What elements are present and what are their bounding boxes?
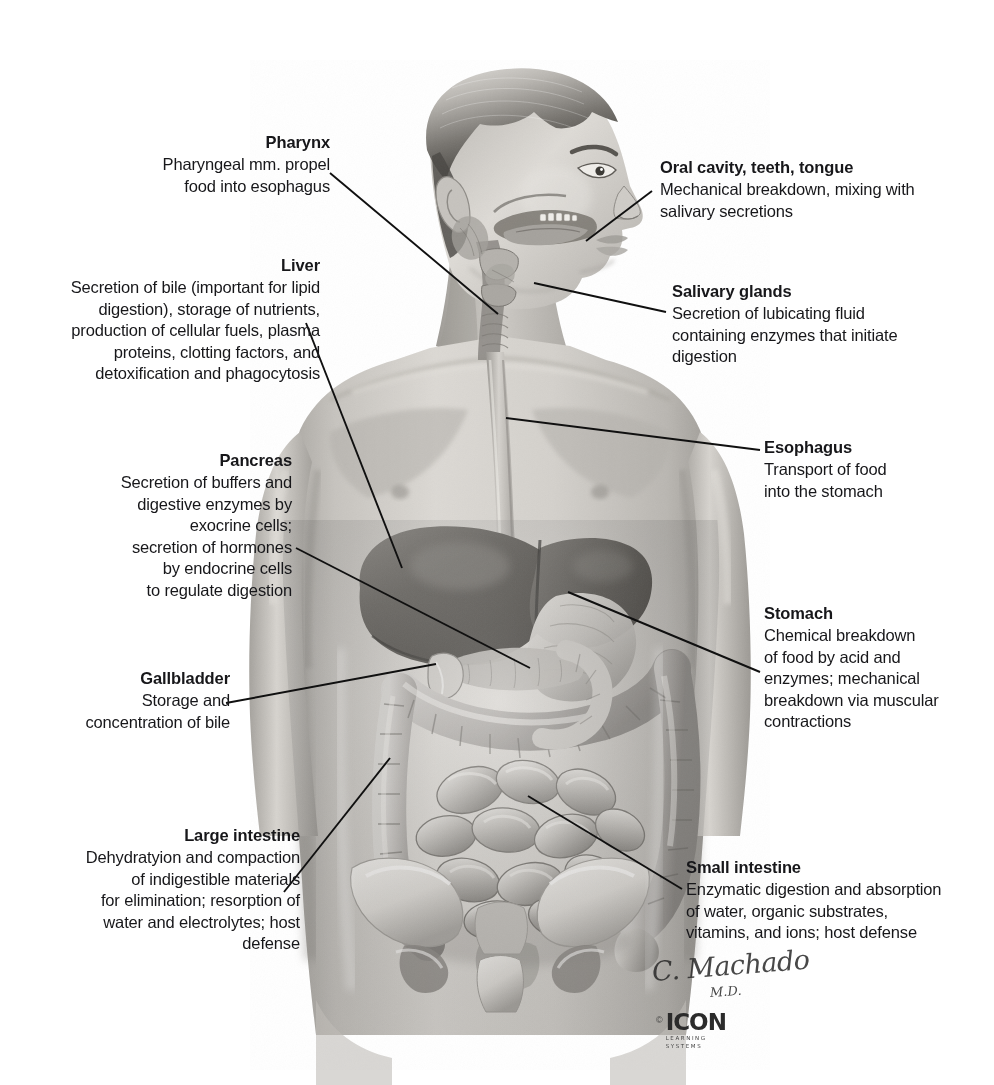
callout-liver: Liver Secretion of bile (important for l… bbox=[42, 255, 320, 385]
callout-oral-cavity-body: Mechanical breakdown, mixing with saliva… bbox=[660, 179, 960, 222]
callout-small-intestine: Small intestine Enzymatic digestion and … bbox=[686, 857, 972, 944]
callout-oral-cavity: Oral cavity, teeth, tongue Mechanical br… bbox=[660, 157, 960, 222]
callout-pharynx-body: Pharyngeal mm. propel food into esophagu… bbox=[118, 154, 330, 197]
callout-gallbladder: Gallbladder Storage and concentration of… bbox=[38, 668, 230, 733]
callout-salivary-glands: Salivary glands Secretion of lubicating … bbox=[672, 281, 962, 368]
callout-large-intestine: Large intestine Dehydratyion and compact… bbox=[18, 825, 300, 955]
callout-small-intestine-body: Enzymatic digestion and absorption of wa… bbox=[686, 879, 972, 943]
callout-pancreas: Pancreas Secretion of buffers and digest… bbox=[52, 450, 292, 601]
callout-large-intestine-body: Dehydratyion and compaction of indigesti… bbox=[18, 847, 300, 954]
callout-pancreas-body: Secretion of buffers and digestive enzym… bbox=[52, 472, 292, 601]
icon-learning-systems-logo: ICON LEARNING SYSTEMS bbox=[666, 1012, 726, 1050]
copyright-symbol: © bbox=[656, 1016, 663, 1025]
artist-credit: C. Machado M.D. © ICON LEARNING SYSTEMS bbox=[652, 956, 832, 1050]
callout-stomach-title: Stomach bbox=[764, 603, 978, 624]
callout-esophagus: Esophagus Transport of food into the sto… bbox=[764, 437, 974, 502]
publisher-brand-name: ICON bbox=[666, 1012, 726, 1033]
callout-small-intestine-title: Small intestine bbox=[686, 857, 972, 878]
callout-salivary-glands-body: Secretion of lubicating fluid containing… bbox=[672, 303, 962, 367]
callout-pharynx: Pharynx Pharyngeal mm. propel food into … bbox=[118, 132, 330, 197]
callout-pharynx-title: Pharynx bbox=[118, 132, 330, 153]
publisher-tagline: LEARNING SYSTEMS bbox=[666, 1034, 726, 1051]
digestive-system-figure: Pharynx Pharyngeal mm. propel food into … bbox=[0, 0, 994, 1085]
callout-pancreas-title: Pancreas bbox=[52, 450, 292, 471]
callout-gallbladder-body: Storage and concentration of bile bbox=[38, 690, 230, 733]
callout-oral-cavity-title: Oral cavity, teeth, tongue bbox=[660, 157, 960, 178]
callout-liver-body: Secretion of bile (important for lipid d… bbox=[42, 277, 320, 384]
callout-liver-title: Liver bbox=[42, 255, 320, 276]
callout-salivary-glands-title: Salivary glands bbox=[672, 281, 962, 302]
callout-stomach-body: Chemical breakdown of food by acid and e… bbox=[764, 625, 978, 732]
callout-gallbladder-title: Gallbladder bbox=[38, 668, 230, 689]
callout-stomach: Stomach Chemical breakdown of food by ac… bbox=[764, 603, 978, 733]
publisher-logo: © ICON LEARNING SYSTEMS bbox=[656, 1012, 832, 1050]
callout-esophagus-body: Transport of food into the stomach bbox=[764, 459, 974, 502]
callout-esophagus-title: Esophagus bbox=[764, 437, 974, 458]
callout-large-intestine-title: Large intestine bbox=[18, 825, 300, 846]
